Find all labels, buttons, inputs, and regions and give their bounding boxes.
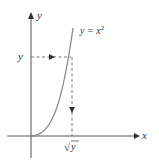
vertical-guide bbox=[69, 57, 75, 136]
sqrt-var-label: y bbox=[70, 141, 76, 152]
x-axis-label: x bbox=[141, 129, 147, 141]
down-arrow-icon bbox=[69, 107, 75, 113]
curve-label: y = x2 bbox=[79, 24, 105, 36]
x-axis bbox=[7, 133, 140, 139]
function-diagram: y x y = x2 y √ y bbox=[0, 0, 159, 166]
y-axis-arrow-icon bbox=[28, 12, 34, 19]
sqrt-radical-icon: √ bbox=[64, 141, 71, 153]
x-axis-arrow-icon bbox=[134, 133, 140, 139]
curve-label-exponent: 2 bbox=[101, 24, 105, 32]
right-arrow-icon bbox=[49, 54, 55, 60]
sqrt-y-label: √ y bbox=[64, 141, 79, 153]
parabola-curve bbox=[31, 28, 73, 136]
y-axis-label: y bbox=[36, 9, 42, 21]
y-value-label: y bbox=[17, 50, 23, 62]
curve-label-lhs: y = x bbox=[79, 25, 101, 36]
horizontal-guide bbox=[31, 54, 71, 60]
